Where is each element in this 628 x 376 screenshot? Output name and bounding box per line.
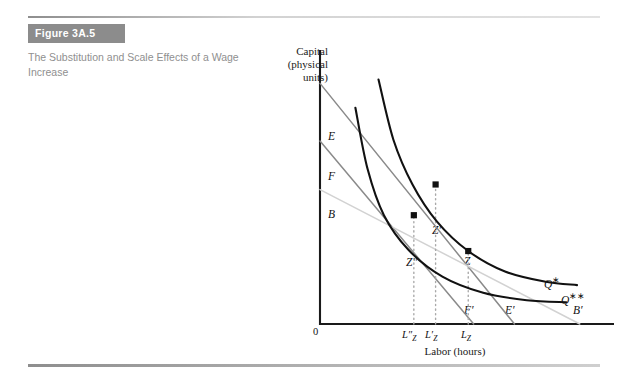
- plot-svg: [265, 36, 615, 352]
- series-isoquant-Q-double-star: [355, 108, 566, 303]
- series-isocost-F-Fprime: [320, 141, 474, 324]
- series-isocost-B-Bprime: [320, 190, 580, 324]
- axis-lines: [320, 50, 614, 324]
- marker-Z-prime: [433, 181, 439, 187]
- figure-caption: The Substitution and Scale Effects of a …: [28, 50, 240, 80]
- figure-number-badge: Figure 3A.5: [28, 24, 125, 43]
- isoquant-isocost-plot: [265, 36, 615, 352]
- series-isoquant-Q-star: [379, 80, 578, 286]
- marker-Z: [465, 248, 471, 254]
- bottom-divider-rule: [28, 364, 600, 367]
- series-isocost-E-Eprime: [320, 83, 514, 324]
- figure-page: Figure 3A.5 The Substitution and Scale E…: [0, 0, 628, 376]
- marker-Z-double-prime: [411, 212, 417, 218]
- top-divider-rule: [28, 16, 600, 18]
